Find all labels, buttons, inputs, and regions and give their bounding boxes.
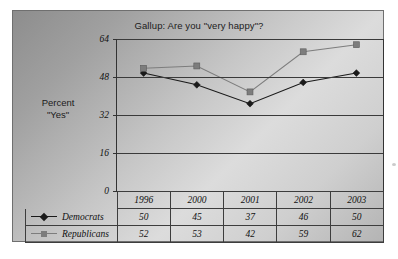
year-header-2002: 2002 [277, 192, 330, 209]
legend-marker-square-icon [31, 229, 57, 239]
cell-democrats-2000: 45 [170, 209, 223, 226]
legend-entry-republicans[interactable]: Republicans [26, 226, 118, 243]
data-point-republicans-2002[interactable] [300, 49, 306, 55]
cell-democrats-1996: 50 [117, 209, 170, 226]
y-axis-tick-labels: 016324864 [75, 39, 113, 191]
y-tick-label-64: 64 [75, 34, 109, 44]
year-header-2001: 2001 [224, 192, 277, 209]
gridline-32 [117, 115, 383, 116]
chart-title: Gallup: Are you "very happy"? [13, 20, 385, 31]
series-line-republicans [144, 45, 357, 92]
gridline-16 [117, 153, 383, 154]
y-tick-label-16: 16 [75, 148, 109, 158]
data-point-republicans-2001[interactable] [247, 89, 253, 95]
year-header-1996: 1996 [117, 192, 170, 209]
data-point-democrats-2003[interactable] [353, 70, 360, 77]
table-row: Republicans5253425962 [26, 226, 384, 243]
y-tick-label-32: 32 [75, 110, 109, 120]
table-row: Democrats5045374650 [26, 209, 384, 226]
gridline-64 [117, 39, 383, 40]
y-tickmark-32 [113, 115, 117, 116]
data-point-republicans-2003[interactable] [353, 42, 359, 48]
data-point-democrats-2002[interactable] [300, 79, 307, 86]
legend-label: Republicans [62, 229, 109, 239]
cell-democrats-2002: 46 [277, 209, 330, 226]
cell-democrats-2003: 50 [330, 209, 383, 226]
cell-democrats-2001: 37 [224, 209, 277, 226]
table-header-row: 19962000200120022003 [26, 192, 384, 209]
legend-label: Democrats [62, 212, 104, 222]
legend-entry-democrats[interactable]: Democrats [26, 209, 118, 226]
data-table-body: 19962000200120022003 Democrats5045374650… [26, 192, 384, 243]
data-point-republicans-2000[interactable] [194, 63, 200, 69]
legend-marker-diamond-icon [31, 212, 57, 222]
cell-republicans-1996: 52 [117, 226, 170, 243]
chart-frame: Gallup: Are you "very happy"? Percent "Y… [12, 10, 384, 242]
header-corner-cell [26, 192, 118, 209]
gridline-48 [117, 77, 383, 78]
year-header-2003: 2003 [330, 192, 383, 209]
plot-area [116, 39, 384, 191]
y-tickmark-48 [113, 77, 117, 78]
speck-artifact [392, 163, 396, 166]
cell-republicans-2003: 62 [330, 226, 383, 243]
cell-republicans-2002: 59 [277, 226, 330, 243]
data-point-republicans-1996[interactable] [141, 65, 147, 71]
y-tickmark-16 [113, 153, 117, 154]
cell-republicans-2001: 42 [224, 226, 277, 243]
data-point-democrats-2001[interactable] [247, 100, 254, 107]
y-tick-label-48: 48 [75, 72, 109, 82]
y-tickmark-64 [113, 39, 117, 40]
data-table: 19962000200120022003 Democrats5045374650… [25, 191, 384, 243]
cell-republicans-2000: 53 [170, 226, 223, 243]
year-header-2000: 2000 [170, 192, 223, 209]
data-point-democrats-2000[interactable] [193, 81, 200, 88]
